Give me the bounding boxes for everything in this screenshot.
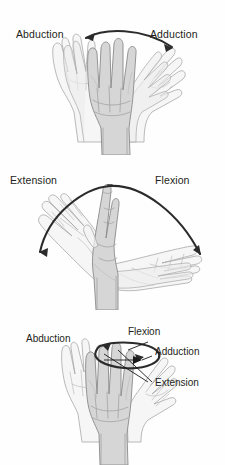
label-flexion: Flexion	[155, 174, 190, 186]
panel-circumduction: Abduction Flexion Adduction Extension	[0, 310, 225, 465]
label-extension-3: Extension	[155, 377, 199, 388]
label-extension: Extension	[10, 174, 57, 186]
label-abduction: Abduction	[16, 28, 64, 40]
panel-flexion-extension: Extension Flexion	[0, 152, 225, 310]
main-hand-neutral-3	[86, 342, 134, 465]
label-adduction-3: Adduction	[155, 346, 199, 357]
label-adduction: Adduction	[150, 28, 198, 40]
leader-adduction	[142, 356, 152, 360]
label-abduction-3: Abduction	[26, 333, 70, 344]
wrist-range-of-motion-figure: Abduction Adduction	[0, 0, 225, 465]
panel-abduction-adduction: Abduction Adduction	[0, 0, 225, 155]
panel-abduction-adduction-graphic: Abduction Adduction	[0, 0, 225, 155]
panel-circumduction-graphic: Abduction Flexion Adduction Extension	[0, 310, 225, 465]
ghost-hand-right	[127, 358, 178, 442]
panel-flexion-extension-graphic: Extension Flexion	[0, 152, 225, 310]
label-flexion-3: Flexion	[128, 326, 160, 337]
main-hand-upright	[93, 184, 120, 310]
